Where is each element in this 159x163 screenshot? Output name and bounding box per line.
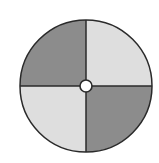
quadrant-bottom-left	[20, 86, 86, 152]
quadrant-bottom-right	[86, 86, 152, 152]
quadrant-top-left	[20, 20, 86, 86]
quartered-disk-diagram	[0, 0, 159, 163]
center-hole	[80, 80, 92, 92]
quadrant-top-right	[86, 20, 152, 86]
